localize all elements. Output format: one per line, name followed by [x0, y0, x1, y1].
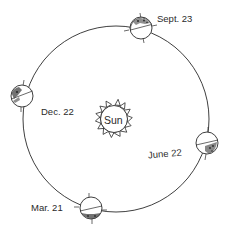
- sun-label: Sun: [104, 115, 123, 126]
- label-sept: Sept. 23: [157, 14, 192, 24]
- earth-sept-icon: [124, 13, 157, 43]
- earth-june-icon: [196, 127, 218, 160]
- earth-mar-icon: [74, 193, 107, 224]
- label-mar: Mar. 21: [31, 203, 63, 213]
- label-dec: Dec. 22: [41, 107, 74, 117]
